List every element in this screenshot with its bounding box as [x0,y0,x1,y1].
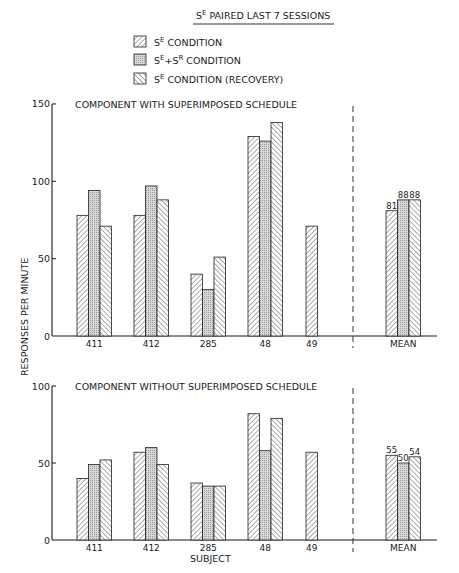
bars-bottom: 555054 [77,414,421,540]
mean-value-label: 50 [398,453,409,463]
x-tick-label: 49 [306,543,318,553]
bar-mean-series-2 [398,200,410,336]
hatch-forward-swatch-icon [134,36,146,47]
svg-text:SE CONDITION (RECOVERY): SE CONDITION (RECOVERY) [154,73,283,85]
y-tick-label: 50 [38,253,50,264]
chart-title-top: COMPONENT WITH SUPERIMPOSED SCHEDULE [75,99,297,110]
x-tick-label: 285 [200,339,217,349]
x-tick-label: 48 [260,543,272,553]
bar-412-series-1 [134,452,146,540]
bar-411-series-3 [100,460,112,540]
bar-mean-series-3 [409,200,421,336]
bar-412-series-2 [146,448,158,540]
x-tick-label: MEAN [390,339,416,349]
bars-top: 818888 [77,123,421,336]
svg-text:SE PAIRED LAST 7 SESSIONS: SE PAIRED LAST 7 SESSIONS [196,9,330,21]
y-tick-label: 100 [32,381,50,392]
bar-411-series-2 [89,191,101,336]
bar-285-series-3 [214,257,226,336]
bar-49-series-1 [306,452,318,540]
bar-mean-series-1 [386,211,398,336]
bar-mean-series-1 [386,455,398,540]
bar-48-series-3 [271,123,283,336]
svg-text:SE CONDITION: SE CONDITION [154,36,222,48]
y-axis-label: RESPONSES PER MINUTE [19,258,30,376]
y-tick-label: 150 [32,98,50,109]
bar-412-series-3 [157,465,169,540]
legend-item-se-condition: SE CONDITION [134,36,222,48]
mean-value-label: 54 [409,447,420,457]
y-tick-label: 0 [44,535,50,546]
bar-411-series-2 [89,465,101,540]
bar-48-series-1 [248,414,260,540]
x-axis-label: SUBJECT [190,553,231,564]
chart-without-superimposed-schedule: COMPONENT WITHOUT SUPERIMPOSED SCHEDULE … [32,381,437,554]
bar-48-series-3 [271,418,283,540]
stipple-swatch-icon [134,54,146,65]
x-tick-label: 48 [260,339,272,349]
bar-412-series-3 [157,200,169,336]
bar-285-series-1 [191,274,203,336]
x-tick-label: 411 [86,543,103,553]
bar-412-series-1 [134,215,146,336]
x-tick-label: 412 [143,339,160,349]
y-tick-label: 100 [32,176,50,187]
x-tick-label: MEAN [390,543,416,553]
x-tick-label: 411 [86,339,103,349]
figure-header: SE PAIRED LAST 7 SESSIONS [193,9,334,24]
bar-285-series-2 [203,486,215,540]
x-tick-label: 412 [143,543,160,553]
bar-mean-series-2 [398,463,410,540]
bar-285-series-1 [191,483,203,540]
chart-title-bottom: COMPONENT WITHOUT SUPERIMPOSED SCHEDULE [75,381,317,392]
mean-value-label: 88 [409,190,420,200]
mean-value-label: 55 [386,445,397,455]
legend-item-se-recovery: SE CONDITION (RECOVERY) [134,73,283,85]
bar-411-series-1 [77,215,89,336]
legend-item-se-sr-condition: SE+SR CONDITION [134,54,241,66]
x-tick-label: 285 [200,543,217,553]
svg-text:SE+SR CONDITION: SE+SR CONDITION [154,54,241,66]
bar-411-series-3 [100,226,112,336]
mean-value-label: 88 [398,190,409,200]
legend: SE CONDITION SE+SR CONDITION SE CONDITIO… [134,36,283,85]
bar-49-series-1 [306,226,318,336]
hatch-back-swatch-icon [134,73,146,84]
figure: SE PAIRED LAST 7 SESSIONS SE CONDITION S… [0,0,459,573]
mean-value-label: 81 [386,201,397,211]
bar-48-series-2 [260,451,272,540]
bar-mean-series-3 [409,457,421,540]
bar-48-series-1 [248,136,260,336]
bar-412-series-2 [146,186,158,336]
chart-with-superimposed-schedule: COMPONENT WITH SUPERIMPOSED SCHEDULE 050… [32,98,437,349]
x-tick-label: 49 [306,339,318,349]
bar-285-series-3 [214,486,226,540]
y-tick-label: 0 [44,331,50,342]
bar-411-series-1 [77,478,89,540]
bar-48-series-2 [260,141,272,336]
bar-285-series-2 [203,290,215,336]
y-tick-label: 50 [38,458,50,469]
